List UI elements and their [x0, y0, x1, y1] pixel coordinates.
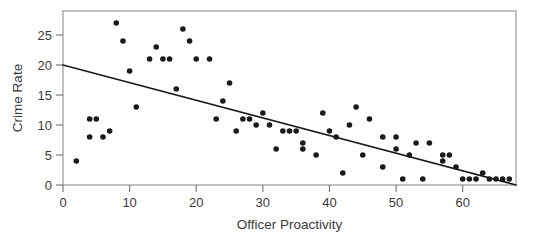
- trend-line: [63, 65, 516, 185]
- data-point: [127, 68, 133, 74]
- data-point: [160, 56, 166, 62]
- data-point: [320, 110, 326, 116]
- data-point: [74, 158, 80, 164]
- data-point: [187, 38, 193, 44]
- data-point: [427, 140, 433, 146]
- y-tick-label: 20: [38, 58, 52, 73]
- data-point: [180, 26, 186, 32]
- data-point: [280, 128, 286, 134]
- data-point: [420, 176, 426, 182]
- data-point: [233, 128, 239, 134]
- data-point: [167, 56, 173, 62]
- data-point: [300, 140, 306, 146]
- data-point: [407, 152, 413, 158]
- x-tick-label: 60: [455, 195, 469, 210]
- data-point: [400, 176, 406, 182]
- data-point: [333, 134, 339, 140]
- x-tick-label: 0: [59, 195, 66, 210]
- data-point: [467, 176, 473, 182]
- y-tick-label: 5: [45, 148, 52, 163]
- data-point: [460, 176, 466, 182]
- data-point: [120, 38, 126, 44]
- x-axis-ticks: 0102030405060: [59, 185, 470, 210]
- data-point: [480, 170, 486, 176]
- data-point: [87, 134, 93, 140]
- data-point: [380, 134, 386, 140]
- data-point: [267, 122, 273, 128]
- scatter-plot-figure: 0510152025 0102030405060 Officer Proacti…: [0, 0, 533, 238]
- data-point: [207, 56, 213, 62]
- data-point: [107, 128, 113, 134]
- data-point: [87, 116, 93, 122]
- y-tick-label: 10: [38, 118, 52, 133]
- data-point: [240, 116, 246, 122]
- x-axis-title: Officer Proactivity: [237, 217, 343, 232]
- data-point: [493, 176, 499, 182]
- crime-rate-vs-officer-proactivity-chart: 0510152025 0102030405060 Officer Proacti…: [0, 0, 533, 238]
- data-point: [487, 176, 493, 182]
- data-point: [380, 164, 386, 170]
- plot-frame: [63, 11, 516, 185]
- data-point: [393, 134, 399, 140]
- data-point: [213, 116, 219, 122]
- data-point: [193, 56, 199, 62]
- data-point: [300, 146, 306, 152]
- x-tick-label: 20: [189, 195, 203, 210]
- data-point: [113, 20, 119, 26]
- data-point-group: [74, 20, 513, 182]
- data-point: [347, 122, 353, 128]
- x-tick-label: 10: [122, 195, 136, 210]
- data-point: [94, 116, 100, 122]
- data-point: [360, 152, 366, 158]
- data-point: [313, 152, 319, 158]
- plot-area-border: [63, 11, 516, 185]
- y-axis-ticks: 0510152025: [38, 28, 63, 193]
- data-point: [447, 152, 453, 158]
- data-point: [147, 56, 153, 62]
- x-tick-label: 50: [389, 195, 403, 210]
- y-axis-title: Crime Rate: [10, 64, 25, 132]
- y-tick-label: 25: [38, 28, 52, 43]
- x-tick-label: 40: [322, 195, 336, 210]
- data-point: [327, 128, 333, 134]
- data-point: [273, 146, 279, 152]
- data-point: [340, 170, 346, 176]
- y-tick-label: 0: [45, 178, 52, 193]
- data-point: [100, 134, 106, 140]
- data-point: [413, 140, 419, 146]
- data-point: [220, 98, 226, 104]
- y-tick-label: 15: [38, 88, 52, 103]
- x-tick-label: 30: [256, 195, 270, 210]
- data-point: [367, 116, 373, 122]
- data-point: [153, 44, 159, 50]
- data-point: [260, 110, 266, 116]
- regression-line-group: [63, 65, 516, 185]
- data-point: [473, 176, 479, 182]
- data-point: [227, 80, 233, 86]
- data-point: [393, 146, 399, 152]
- data-point: [287, 128, 293, 134]
- data-point: [353, 104, 359, 110]
- data-point: [173, 86, 179, 92]
- data-point: [133, 104, 139, 110]
- data-point: [253, 122, 259, 128]
- data-point: [440, 158, 446, 164]
- data-point: [440, 152, 446, 158]
- data-point: [500, 176, 506, 182]
- data-point: [247, 116, 253, 122]
- data-point: [507, 176, 513, 182]
- data-point: [293, 128, 299, 134]
- data-point: [453, 164, 459, 170]
